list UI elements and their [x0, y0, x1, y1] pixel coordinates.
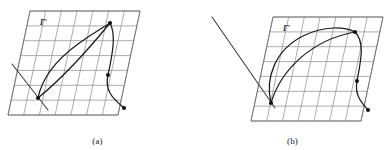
panel-a-grid [8, 11, 140, 115]
node-middle [106, 73, 110, 77]
panel-a-curve-group [38, 23, 124, 108]
panel-b-drawing: Γ′ [195, 0, 390, 150]
node-top-right [353, 30, 357, 34]
node-bottom-right [122, 106, 126, 110]
panel-a-ray-group [12, 64, 48, 110]
surface-label-gamma-prime: Γ′ [282, 24, 290, 33]
incoming-ray [212, 17, 275, 108]
panel-b-ray-group [212, 17, 275, 108]
panel-b-dot-group [269, 30, 370, 112]
incoming-ray [12, 64, 48, 110]
figure-panel-a: Γ′ (a) [0, 0, 195, 150]
node-left [269, 101, 273, 105]
curve-right-s [107, 23, 124, 108]
figure-panel-b: Γ′ (b) [195, 0, 390, 150]
curve-left-loop [38, 23, 110, 98]
curve-chord [38, 23, 110, 98]
node-bottom-right [366, 108, 370, 112]
figure-root: Γ′ (a) [0, 0, 390, 150]
panel-b-caption: (b) [195, 136, 390, 146]
node-top [108, 21, 112, 25]
node-left [36, 96, 40, 100]
surface-label-gamma-prime: Γ′ [39, 18, 47, 27]
panel-a-caption: (a) [0, 136, 195, 146]
panel-b-grid [251, 17, 383, 121]
curve-arc-top [269, 28, 355, 103]
node-middle [355, 79, 359, 83]
panel-a-drawing: Γ′ [0, 0, 195, 150]
